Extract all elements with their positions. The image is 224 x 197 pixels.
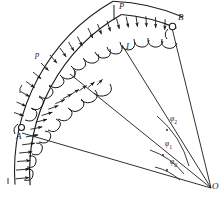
angle-phi2-subscript: 2 bbox=[174, 119, 177, 125]
radial-line-OA bbox=[22, 133, 211, 188]
outer-load-arc bbox=[15, 1, 113, 184]
arch-rib-arc bbox=[30, 15, 122, 186]
angle-phi0-subscript: 0 bbox=[174, 162, 177, 168]
label-angle-phi2: φ2 bbox=[170, 115, 177, 125]
label-point-A: A bbox=[16, 132, 22, 141]
distributed-load-arrows bbox=[14, 16, 165, 179]
label-angle-phi0: φ0 bbox=[170, 158, 177, 168]
radial-line-OI1 bbox=[70, 74, 211, 188]
label-distributed-load-p: p bbox=[35, 50, 39, 59]
radial-lines bbox=[22, 28, 211, 188]
label-section-I: I bbox=[73, 70, 76, 79]
arch-rib-arc-right bbox=[122, 15, 177, 29]
hinge-A bbox=[19, 125, 25, 131]
radial-line-OI2 bbox=[122, 45, 211, 188]
label-point-O: O bbox=[212, 182, 219, 191]
label-point-B: B bbox=[178, 13, 184, 22]
angle-phi1-subscript: 1 bbox=[169, 144, 172, 150]
arch-arcs bbox=[15, 1, 183, 185]
arch-diagram-svg bbox=[0, 0, 224, 197]
label-concentrated-load-P: P bbox=[119, 2, 124, 11]
hinge-B-loop bbox=[165, 29, 168, 39]
radial-line-OB bbox=[172, 28, 211, 188]
label-angle-phi1: φ1 bbox=[165, 140, 172, 150]
label-section-I2: I bbox=[126, 42, 129, 51]
hinge-B bbox=[169, 23, 175, 29]
figure-canvas: A B O I I p P φ0 φ1 φ2 bbox=[0, 0, 224, 197]
load-scallop-loops bbox=[24, 38, 177, 180]
